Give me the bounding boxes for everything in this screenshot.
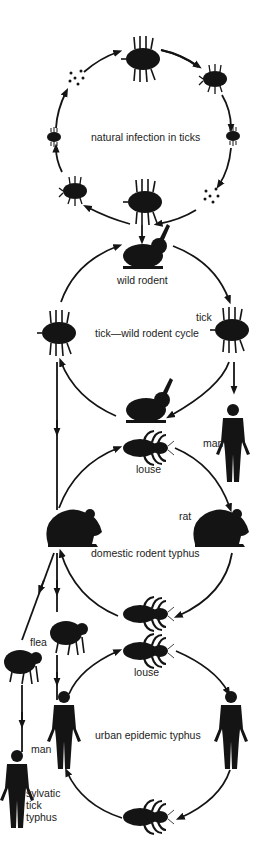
label-wild-rodent: wild rodent — [117, 275, 168, 286]
label-sylvatic-line-3: typhus — [26, 811, 60, 823]
flea-icon — [50, 621, 88, 655]
wild-rodent-icon — [123, 224, 170, 269]
label-louse-urban: louse — [134, 667, 159, 678]
tick-nymph-icon — [59, 176, 87, 206]
label-sylvatic-line-1: sylvatic — [26, 787, 60, 799]
tick-icon — [37, 310, 76, 356]
label-louse: louse — [136, 464, 161, 475]
label-rat: rat — [179, 511, 191, 522]
rat-icon — [193, 509, 249, 547]
label-sylvatic-tick-typhus: sylvatic tick typhus — [26, 787, 60, 823]
flea-icon — [4, 650, 42, 684]
tick-adult-icon — [123, 179, 162, 225]
tick-larva-icon — [226, 126, 240, 146]
tick-larva-icon — [47, 127, 61, 147]
label-urban-epidemic-typhus: urban epidemic typhus — [95, 730, 201, 741]
louse-icon — [123, 597, 174, 631]
man-icon — [47, 691, 81, 769]
louse-icon — [123, 634, 174, 668]
louse-icon — [123, 431, 174, 465]
tick-adult-icon — [121, 36, 160, 82]
louse-icon — [123, 800, 174, 834]
label-man-left: man — [31, 744, 51, 755]
eggs-icon — [204, 188, 220, 204]
tick-icon — [210, 307, 249, 353]
label-tick: tick — [196, 312, 212, 323]
label-sylvatic-line-2: tick — [26, 799, 60, 811]
tick-nymph-icon — [199, 64, 227, 94]
label-tick-wild-rodent-cycle: tick—wild rodent cycle — [95, 328, 199, 339]
label-flea: flea — [30, 637, 47, 648]
label-domestic-rodent-typhus: domestic rodent typhus — [91, 548, 200, 559]
eggs-icon — [69, 70, 85, 86]
label-man-right: man — [203, 438, 223, 449]
label-natural-infection: natural infection in ticks — [91, 132, 200, 143]
wild-rodent-icon — [126, 378, 173, 423]
rat-icon — [46, 509, 102, 547]
man-icon — [214, 691, 248, 769]
